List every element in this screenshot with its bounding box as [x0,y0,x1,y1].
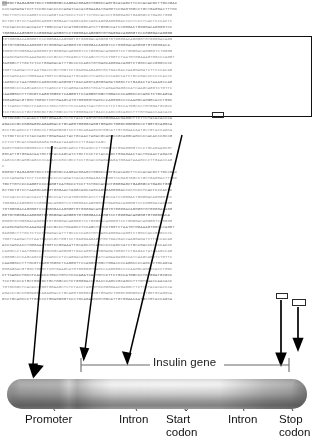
cylinder-banding [7,379,307,409]
label-start-codon-line2: codon [166,426,197,437]
label-intron-1: Intron [119,413,148,426]
label-intron-1-line1: Intron [119,413,148,425]
label-start-codon-line1: Start [166,413,190,425]
dna-sequence-block: GGGGCTGAGAGGGTGCCTGGGGGGCCAGGACGGAGCTGGG… [0,0,316,310]
insulin-gene-label: Insulin gene [153,356,216,368]
stop-codon-arrow-1 [275,300,287,367]
label-intron-2-line1: Intron [228,413,257,425]
cylinder-right-cap [291,379,307,409]
stop-codon-arrow-2 [292,307,303,352]
label-stop-codon-line2: codon [279,426,310,437]
chromosome-cylinder [7,379,307,409]
sequence-line-list: GGGGCTGAGAGGGTGCCTGGGGGGCCAGGACGGAGCTGGG… [0,0,316,302]
label-intron-2: Intron [228,413,257,426]
label-promoter: Promoter [25,413,72,426]
cylinder-left-cap [7,379,21,409]
label-stop-codon: Stop codon [279,413,310,437]
label-promoter-line1: Promoter [25,413,72,425]
sequence-line: GCCTGCAGCCCTTGGCCCTGGAGGGGTCCCTGCAGAAGCG… [0,296,316,302]
label-stop-codon-line1: Stop [279,413,303,425]
scan-artifact [2,1,7,6]
label-start-codon: Start codon [166,413,197,437]
